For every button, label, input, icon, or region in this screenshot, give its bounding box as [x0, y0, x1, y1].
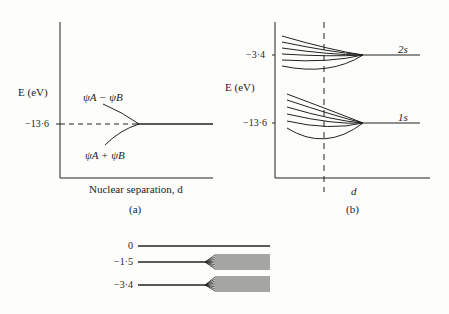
panel-a-caption: (a) — [129, 204, 141, 215]
panel-c-band-3-4 — [205, 277, 270, 291]
panel-c-tick-1-5: −1·5 — [114, 257, 133, 267]
panel-a-x-label: Nuclear separation, d — [89, 184, 183, 195]
panel-a-bonding-label: ψA + ψB — [85, 150, 125, 161]
figure: E (eV) −13·6 ψA − ψB ψA + ψB Nuclear sep… — [0, 0, 449, 314]
diagram-canvas — [0, 0, 449, 314]
panel-b-1s-label: 1s — [398, 112, 408, 123]
panel-b-y-label: E (eV) — [225, 82, 255, 93]
panel-b-2s-fan — [282, 36, 363, 69]
panel-c-band-1-5 — [205, 255, 270, 269]
panel-b-tick-2s: −3·4 — [246, 50, 265, 60]
panel-b-x-label: d — [351, 186, 357, 197]
panel-a-graphics — [56, 22, 213, 178]
panel-b-1s-fan — [287, 94, 363, 139]
panel-a-tick-label: −13·6 — [25, 119, 49, 129]
panel-b-2s-label: 2s — [398, 44, 408, 55]
panel-b-tick-1s: −13·6 — [243, 118, 267, 128]
panel-a-antibonding-label: ψA − ψB — [83, 92, 123, 103]
panel-a-y-label: E (eV) — [18, 87, 48, 98]
panel-c-tick-3-4: −3·4 — [114, 280, 133, 290]
panel-a-bonding-curve — [105, 124, 139, 145]
panel-b-caption: (b) — [346, 204, 359, 215]
panel-a-antibonding-curve — [103, 104, 139, 124]
panel-c-graphics — [138, 246, 270, 291]
panel-c-tick-0: 0 — [128, 241, 133, 251]
